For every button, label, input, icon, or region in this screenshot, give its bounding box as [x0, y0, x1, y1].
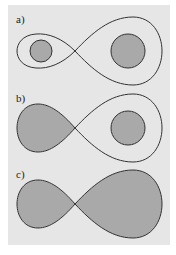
right-lobe-c: [75, 170, 162, 238]
large-disk-a: [111, 34, 145, 68]
left-lobe-c: [17, 180, 75, 228]
panel-c: [17, 170, 162, 238]
left-lobe-b: [17, 104, 75, 152]
figure-eight-diagram: [0, 0, 176, 255]
panel-label-c: c): [16, 169, 25, 180]
panel-b: [17, 94, 162, 162]
small-disk-a: [30, 40, 52, 62]
panel-a: [17, 17, 162, 85]
panel-label-b: b): [16, 93, 25, 104]
large-disk-b: [111, 111, 145, 145]
panel-label-a: a): [16, 14, 25, 25]
